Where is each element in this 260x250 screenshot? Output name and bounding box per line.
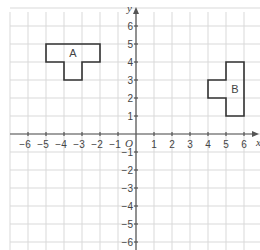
x-tick-label: 6 [241,139,247,150]
x-tick-label: −4 [55,139,67,150]
y-tick-label: −4 [122,201,134,212]
x-tick-label: −3 [73,139,85,150]
y-tick-label: 3 [127,75,133,86]
y-tick-label: 5 [127,39,133,50]
x-tick-label: 5 [223,139,229,150]
y-tick-label: 4 [127,57,133,68]
shape-label-a: A [69,47,77,59]
tick-labels: −6−5−4−3−2−1123456654321−1−2−3−4−5−6Oxy [19,2,260,248]
x-tick-label: −1 [109,139,121,150]
y-tick-label: 1 [127,111,133,122]
x-tick-label: 2 [169,139,175,150]
y-tick-label: −5 [122,219,134,230]
shape-label-b: B [231,83,238,95]
coordinate-plane: −6−5−4−3−2−1123456654321−1−2−3−4−5−6Oxy … [0,0,260,250]
y-tick-label: −2 [122,165,134,176]
x-axis-label: x [255,136,260,148]
x-tick-label: −5 [37,139,49,150]
coordinate-grid-diagram: −6−5−4−3−2−1123456654321−1−2−3−4−5−6Oxy … [0,0,260,250]
y-tick-label: −6 [122,237,134,248]
y-tick-label: 2 [127,93,133,104]
x-tick-label: 4 [205,139,211,150]
origin-label: O [125,137,133,149]
x-tick-label: 3 [187,139,193,150]
y-tick-label: 6 [127,21,133,32]
y-tick-label: −3 [122,183,134,194]
y-axis-label: y [126,2,132,14]
x-tick-label: 1 [151,139,157,150]
x-tick-label: −2 [91,139,103,150]
x-tick-label: −6 [19,139,31,150]
